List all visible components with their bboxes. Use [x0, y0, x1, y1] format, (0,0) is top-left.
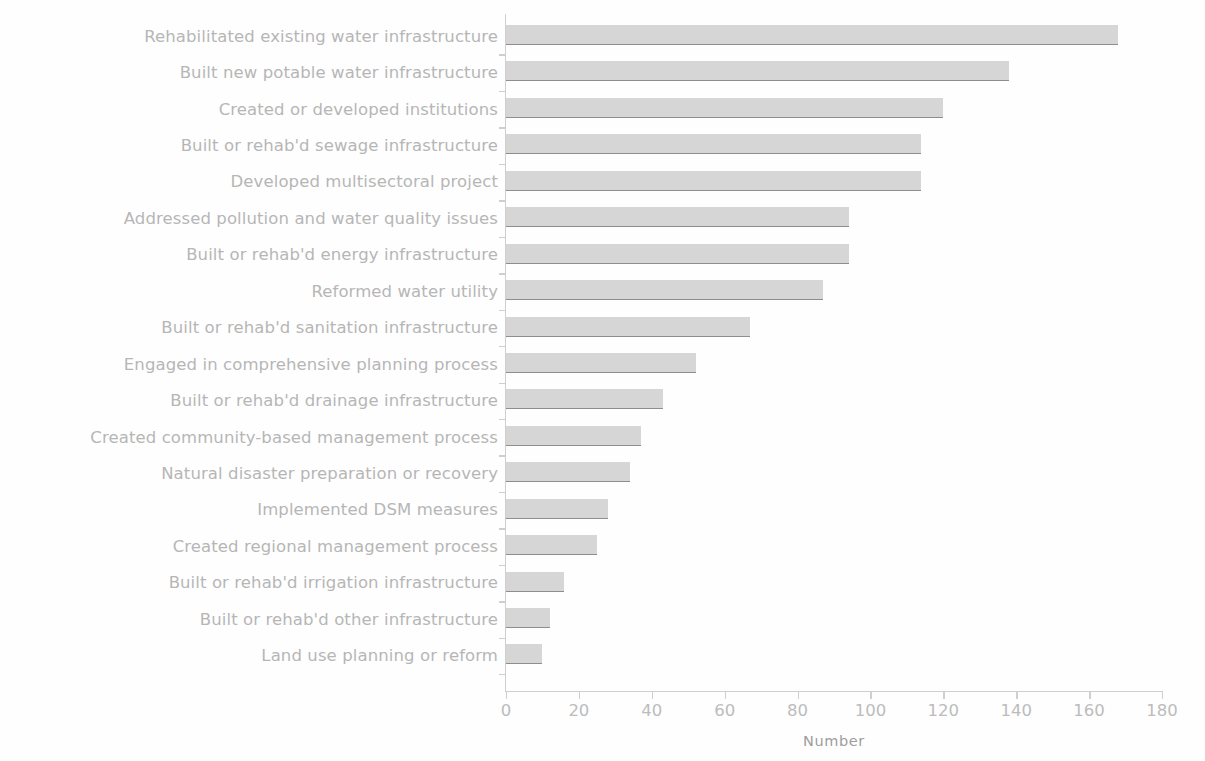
- x-axis-tick: [798, 692, 799, 699]
- category-label: Reformed water utility: [3, 282, 498, 301]
- bar-chart: Rehabilitated existing water infrastruct…: [0, 0, 1205, 761]
- bar: [506, 644, 542, 664]
- chart-row: Rehabilitated existing water infrastruct…: [0, 18, 1205, 54]
- category-label: Created community-based management proce…: [3, 428, 498, 447]
- x-axis-tick: [1162, 692, 1163, 699]
- bar: [506, 171, 921, 191]
- x-axis-tick: [652, 692, 653, 699]
- x-axis-tick-label: 160: [1073, 701, 1105, 720]
- x-axis-tick-label: 80: [787, 701, 808, 720]
- x-axis-tick: [870, 692, 871, 699]
- x-axis-tick: [1016, 692, 1017, 699]
- x-axis-tick: [1089, 692, 1090, 699]
- chart-row: Natural disaster preparation or recovery: [0, 455, 1205, 491]
- bar-track: [506, 200, 1162, 236]
- y-axis-tick: [499, 346, 505, 347]
- x-axis-tick-label: 120: [928, 701, 960, 720]
- category-label: Natural disaster preparation or recovery: [3, 464, 498, 483]
- category-label: Created or developed institutions: [3, 100, 498, 119]
- y-axis-tick: [499, 528, 505, 529]
- chart-row: Built new potable water infrastructure: [0, 54, 1205, 90]
- bar: [506, 535, 597, 555]
- bar: [506, 499, 608, 519]
- category-label: Developed multisectoral project: [3, 172, 498, 191]
- x-axis-tick: [506, 692, 507, 699]
- bar-track: [506, 310, 1162, 346]
- y-axis-tick: [499, 565, 505, 566]
- bar-track: [506, 601, 1162, 637]
- chart-rows: Rehabilitated existing water infrastruct…: [0, 18, 1205, 674]
- chart-row: Reformed water utility: [0, 273, 1205, 309]
- category-label: Created regional management process: [3, 537, 498, 556]
- bar-track: [506, 492, 1162, 528]
- bar: [506, 426, 641, 446]
- y-axis-tick: [499, 383, 505, 384]
- category-label: Built new potable water infrastructure: [3, 63, 498, 82]
- y-axis-tick: [499, 200, 505, 201]
- x-axis-title: Number: [506, 733, 1162, 749]
- chart-row: Built or rehab'd energy infrastructure: [0, 237, 1205, 273]
- bar: [506, 280, 823, 300]
- bar-track: [506, 528, 1162, 564]
- bar-track: [506, 54, 1162, 90]
- y-axis-tick: [499, 674, 505, 675]
- y-axis-tick: [499, 638, 505, 639]
- category-label: Built or rehab'd sewage infrastructure: [3, 136, 498, 155]
- y-axis-tick: [499, 237, 505, 238]
- chart-row: Created or developed institutions: [0, 91, 1205, 127]
- category-label: Addressed pollution and water quality is…: [3, 209, 498, 228]
- x-axis-tick-label: 60: [714, 701, 735, 720]
- chart-row: Built or rehab'd sewage infrastructure: [0, 127, 1205, 163]
- x-axis-tick-label: 140: [1000, 701, 1032, 720]
- bar: [506, 207, 849, 227]
- chart-row: Created regional management process: [0, 528, 1205, 564]
- bar-track: [506, 419, 1162, 455]
- chart-row: Built or rehab'd sanitation infrastructu…: [0, 310, 1205, 346]
- bar-track: [506, 346, 1162, 382]
- chart-row: Built or rehab'd irrigation infrastructu…: [0, 565, 1205, 601]
- bar-track: [506, 455, 1162, 491]
- chart-row: Addressed pollution and water quality is…: [0, 200, 1205, 236]
- category-label: Built or rehab'd energy infrastructure: [3, 245, 498, 264]
- bar: [506, 25, 1118, 45]
- bar-track: [506, 237, 1162, 273]
- y-axis-tick: [499, 91, 505, 92]
- x-axis-tick: [943, 692, 944, 699]
- bar-track: [506, 382, 1162, 418]
- bar-track: [506, 273, 1162, 309]
- y-axis-tick: [499, 164, 505, 165]
- x-axis-tick: [579, 692, 580, 699]
- x-axis-line: [505, 691, 1163, 692]
- bar-track: [506, 164, 1162, 200]
- bar: [506, 317, 750, 337]
- y-axis-line: [505, 14, 506, 691]
- category-label: Implemented DSM measures: [3, 500, 498, 519]
- category-label: Rehabilitated existing water infrastruct…: [3, 27, 498, 46]
- chart-row: Land use planning or reform: [0, 637, 1205, 673]
- y-axis-tick: [499, 310, 505, 311]
- category-label: Built or rehab'd irrigation infrastructu…: [3, 573, 498, 592]
- bar: [506, 572, 564, 592]
- bar-track: [506, 18, 1162, 54]
- x-axis-tick-label: 40: [641, 701, 662, 720]
- bar-track: [506, 127, 1162, 163]
- y-axis-tick: [499, 601, 505, 602]
- category-label: Built or rehab'd drainage infrastructure: [3, 391, 498, 410]
- y-axis-tick: [499, 492, 505, 493]
- chart-row: Developed multisectoral project: [0, 164, 1205, 200]
- chart-row: Built or rehab'd drainage infrastructure: [0, 382, 1205, 418]
- y-axis-tick: [499, 127, 505, 128]
- category-label: Built or rehab'd sanitation infrastructu…: [3, 318, 498, 337]
- x-axis-tick-label: 20: [568, 701, 589, 720]
- chart-row: Implemented DSM measures: [0, 492, 1205, 528]
- y-axis-tick: [499, 455, 505, 456]
- bar-track: [506, 91, 1162, 127]
- category-label: Land use planning or reform: [3, 646, 498, 665]
- x-axis-tick-label: 100: [855, 701, 887, 720]
- y-axis-tick: [499, 54, 505, 55]
- chart-row: Built or rehab'd other infrastructure: [0, 601, 1205, 637]
- bar: [506, 244, 849, 264]
- bar: [506, 98, 943, 118]
- chart-row: Created community-based management proce…: [0, 419, 1205, 455]
- chart-row: Engaged in comprehensive planning proces…: [0, 346, 1205, 382]
